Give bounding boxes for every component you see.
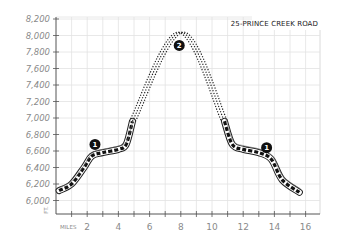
y-tick-label: 6,800 [26,130,50,140]
y-tick-label: 8,000 [26,31,50,41]
x-axis-labels: MILES246810121416 [60,222,312,232]
y-tick-label: 6,000 [26,196,50,206]
axes [53,17,320,217]
segment-badge-number: 2 [177,42,182,50]
x-tick-label: 4 [116,222,122,232]
x-tick-label: 8 [178,222,184,232]
segment-badge-number: 1 [93,141,98,149]
x-tick-label: 2 [84,222,90,232]
x-tick-label: 6 [147,222,153,232]
y-tick-label: 6,200 [26,179,50,189]
y-tick-label: 6,600 [26,146,50,156]
x-tick-label: 12 [237,222,248,232]
road-outline [224,121,299,192]
elevation-profile-chart: 6,0006,2006,4006,6006,8007,0007,2007,400… [0,0,341,248]
chart-title-box: 25-PRINCE CREEK ROAD [231,16,322,30]
y-tick-label: 7,000 [26,113,50,123]
chart-title: 25-PRINCE CREEK ROAD [231,20,318,28]
road-fill [59,121,132,190]
x-tick-label: 14 [269,222,281,232]
y-axis-labels: 6,0006,2006,4006,6006,8007,0007,2007,400… [26,14,50,214]
x-tick-label: 16 [300,222,312,232]
y-tick-label: 7,800 [26,47,50,57]
y-tick-label: 7,400 [26,80,50,90]
y-tick-label: 7,600 [26,64,50,74]
y-axis-unit-label: FT. [43,206,49,214]
segment-badge-number: 1 [264,144,269,152]
y-tick-label: 6,400 [26,163,50,173]
y-tick-label: 8,200 [26,14,50,24]
grid [56,17,320,214]
x-tick-label: 10 [206,222,218,232]
y-tick-label: 7,200 [26,97,50,107]
x-axis-unit-label: MILES [60,224,77,230]
elevation-profile-line [59,32,300,192]
